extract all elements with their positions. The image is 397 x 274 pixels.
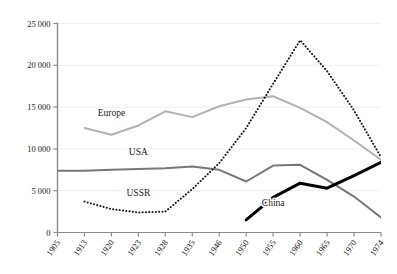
x-axis-ticks: 1905191319201923192819351946195019551960… bbox=[44, 233, 386, 258]
series-group bbox=[58, 40, 382, 220]
axes bbox=[58, 23, 382, 233]
line-chart: 05 00010 00015 00020 00025 0001905191319… bbox=[0, 0, 397, 274]
y-tick-label: 15 000 bbox=[27, 102, 50, 112]
x-tick-label: 1928 bbox=[152, 238, 170, 258]
x-tick-label: 1960 bbox=[287, 238, 305, 258]
series-label-usa: USA bbox=[129, 147, 148, 157]
x-tick-label: 1946 bbox=[206, 238, 224, 258]
series-label-ussr: USSR bbox=[126, 188, 150, 198]
y-tick-label: 20 000 bbox=[27, 60, 50, 70]
y-tick-label: 0 bbox=[46, 228, 50, 238]
x-tick-label: 1905 bbox=[44, 238, 62, 258]
series-label-europe: Europe bbox=[98, 108, 125, 118]
series-label-china: China bbox=[262, 198, 285, 208]
y-axis-ticks: 05 00010 00015 00020 00025 000 bbox=[27, 19, 57, 238]
y-tick-label: 25 000 bbox=[27, 19, 50, 29]
x-tick-label: 1970 bbox=[341, 238, 359, 258]
x-tick-label: 1913 bbox=[71, 238, 89, 258]
x-tick-label: 1955 bbox=[260, 238, 278, 258]
x-tick-label: 1974 bbox=[368, 237, 386, 257]
x-tick-label: 1950 bbox=[233, 238, 251, 258]
y-tick-label: 10 000 bbox=[27, 144, 50, 154]
x-tick-label: 1935 bbox=[179, 238, 197, 258]
x-tick-label: 1965 bbox=[314, 238, 332, 258]
x-tick-label: 1920 bbox=[98, 238, 116, 258]
x-tick-label: 1923 bbox=[125, 238, 143, 258]
chart-canvas: 05 00010 00015 00020 00025 0001905191319… bbox=[0, 0, 397, 274]
series-labels: EuropeEuropeUSAUSAUSSRUSSRChinaChina bbox=[98, 108, 286, 207]
y-tick-label: 5 000 bbox=[31, 186, 50, 196]
